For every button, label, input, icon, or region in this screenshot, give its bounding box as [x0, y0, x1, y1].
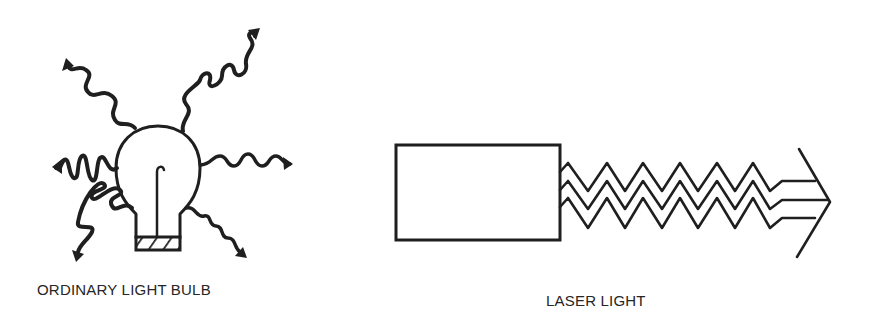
light-ray-down-left	[78, 183, 132, 252]
light-ray-up-left	[68, 66, 135, 128]
arrowhead-left	[52, 159, 62, 174]
arrowhead-right	[283, 157, 293, 170]
bulb-base	[136, 237, 180, 250]
ordinary-light-bulb-caption: ORDINARY LIGHT BULB	[37, 281, 211, 298]
light-ray-up-right	[183, 32, 255, 131]
laser-wave-top	[560, 163, 815, 191]
laser-arrowhead	[797, 149, 830, 257]
laser-figure	[396, 145, 830, 257]
laser-light-caption: LASER LIGHT	[546, 292, 646, 309]
laser-source-box	[396, 145, 560, 240]
light-ray-right	[201, 154, 290, 166]
bulb-filament	[157, 167, 164, 236]
light-ray-down-right	[186, 208, 240, 252]
light-bulb-figure	[52, 28, 293, 262]
light-ray-left	[56, 156, 117, 181]
